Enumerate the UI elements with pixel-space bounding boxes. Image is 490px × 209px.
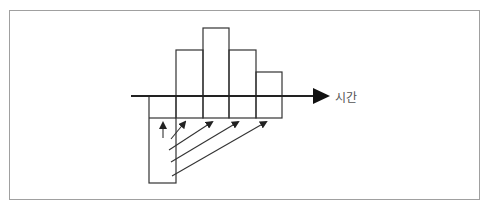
upper-bar-1 <box>176 50 203 96</box>
upper-bar-3 <box>229 50 256 96</box>
arrow-5 <box>172 122 266 176</box>
time-axis-arrowhead-icon <box>313 88 330 104</box>
lower-cell-4 <box>229 96 256 118</box>
lower-cell-2 <box>176 96 203 118</box>
upper-bar-4 <box>256 72 282 96</box>
lower-cell-5 <box>256 96 282 118</box>
diagram-canvas <box>0 0 490 209</box>
arrow-2 <box>171 122 185 139</box>
time-axis-label: 시간 <box>335 88 357 105</box>
lower-cell-tall <box>149 96 176 183</box>
upper-bar-2 <box>203 28 229 96</box>
lower-cell-3 <box>203 96 229 118</box>
